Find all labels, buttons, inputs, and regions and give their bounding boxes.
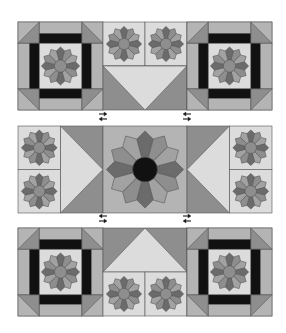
strip-light <box>39 304 82 316</box>
plate-center <box>160 38 171 49</box>
geese-up-over-plates <box>103 228 187 316</box>
arrowhead <box>99 117 102 121</box>
corner-star-block <box>187 228 272 316</box>
plate-center <box>34 186 45 197</box>
arrowhead <box>188 214 191 218</box>
strip-black <box>208 295 251 305</box>
arrow-right-icon <box>99 112 107 116</box>
plates-over-geese-down <box>103 22 187 110</box>
corner-star-block <box>187 22 272 110</box>
strip-black <box>208 34 251 44</box>
strip-black <box>82 249 92 295</box>
strip-light <box>260 249 272 295</box>
strip-black <box>39 89 82 99</box>
strip-black <box>208 89 251 99</box>
strip-black <box>39 240 82 250</box>
strip-light <box>260 43 272 89</box>
plate-center <box>223 60 235 72</box>
strip-light <box>187 43 199 89</box>
corner-star-block <box>18 22 103 110</box>
strip-black <box>251 249 261 295</box>
quilt-svg <box>0 0 286 333</box>
arrow-right-icon <box>183 117 191 121</box>
strip-light <box>39 98 82 110</box>
large-dresden-plate <box>103 126 187 213</box>
plate-center <box>54 266 66 278</box>
arrow-right-icon <box>99 219 107 223</box>
arrowhead <box>183 112 186 116</box>
arrowhead <box>188 117 191 121</box>
plate-center <box>133 157 158 182</box>
plate-center <box>245 142 256 153</box>
geese-left-with-plates <box>187 126 272 213</box>
arrow-left-icon <box>183 112 191 116</box>
arrow-left-icon <box>99 117 107 121</box>
strip-black <box>199 43 209 89</box>
plate-center <box>34 142 45 153</box>
strip-black <box>39 34 82 44</box>
plate-center <box>54 60 66 72</box>
plates-with-geese-right <box>18 126 103 213</box>
strip-light <box>91 43 103 89</box>
strip-black <box>30 249 40 295</box>
plate-center <box>245 186 256 197</box>
plate-center <box>118 38 129 49</box>
strip-light <box>208 228 251 240</box>
arrowhead <box>104 112 107 116</box>
arrowhead <box>99 214 102 218</box>
strip-black <box>30 43 40 89</box>
corner-star-block <box>18 228 103 316</box>
strip-light <box>39 228 82 240</box>
strip-light <box>91 249 103 295</box>
strip-light <box>208 22 251 34</box>
plate-center <box>118 288 129 299</box>
plate-center <box>223 266 235 278</box>
arrowhead <box>104 219 107 223</box>
arrow-right-icon <box>183 214 191 218</box>
plate-center <box>160 288 171 299</box>
quilt-diagram <box>0 0 286 333</box>
arrow-left-icon <box>99 214 107 218</box>
strip-black <box>251 43 261 89</box>
strip-black <box>199 249 209 295</box>
strip-light <box>39 22 82 34</box>
strip-light <box>208 98 251 110</box>
strip-black <box>39 295 82 305</box>
arrowhead <box>183 219 186 223</box>
strip-black <box>82 43 92 89</box>
strip-light <box>187 249 199 295</box>
strip-light <box>18 43 30 89</box>
arrow-left-icon <box>183 219 191 223</box>
strip-light <box>18 249 30 295</box>
strip-black <box>208 240 251 250</box>
strip-light <box>208 304 251 316</box>
